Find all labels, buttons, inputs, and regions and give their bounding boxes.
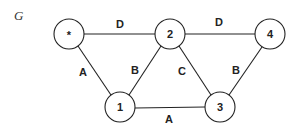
node-1: 1 <box>105 92 135 122</box>
graph-name: G <box>14 8 24 23</box>
edge-label-4-3: B <box>232 64 240 76</box>
edge-label-star-2: D <box>116 18 124 30</box>
node-label-star: * <box>67 29 72 41</box>
node-label-3: 3 <box>217 101 223 113</box>
edge-label-1-3: A <box>165 113 173 125</box>
graph-diagram: G D D A B C B A * 2 4 1 3 <box>0 0 298 134</box>
edge-1-3 <box>135 107 205 108</box>
edge-label-star-1: A <box>79 66 87 78</box>
edge-label-2-3: C <box>178 65 186 77</box>
node-label-4: 4 <box>267 28 274 40</box>
node-star: * <box>54 19 84 49</box>
node-4: 4 <box>255 19 285 49</box>
node-label-2: 2 <box>167 28 173 40</box>
edge-label-2-4: D <box>215 16 223 28</box>
node-3: 3 <box>205 92 235 122</box>
node-label-1: 1 <box>117 101 123 113</box>
edge-label-2-1: B <box>131 64 139 76</box>
node-2: 2 <box>155 19 185 49</box>
